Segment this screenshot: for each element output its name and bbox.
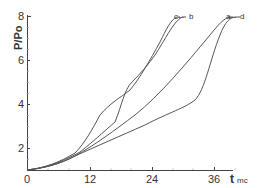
series-d-label: d: [240, 12, 244, 21]
x-tick-0: 0: [24, 173, 30, 185]
minor-ticks: [27, 28, 235, 171]
y-axis-title: P/Po: [12, 25, 24, 50]
series-b-line: [27, 17, 186, 170]
x-axis-unit: mc: [237, 176, 248, 185]
y-tick-4: 4: [18, 98, 24, 110]
x-tick-36: 36: [208, 173, 220, 185]
series-a-line: [27, 17, 233, 170]
series-c-line: [27, 17, 180, 170]
chart: 8 6 4 2 0 12 24 36 P/Po t mc c b a d: [0, 0, 257, 188]
x-tick-24: 24: [146, 173, 158, 185]
axes: [27, 15, 233, 171]
x-axis-title: t: [230, 172, 234, 186]
y-tick-2: 2: [18, 142, 24, 154]
series-c-label: c: [174, 12, 178, 21]
y-tick-8: 8: [18, 10, 24, 22]
series-d-line: [27, 17, 240, 170]
series-a-label: a: [226, 12, 231, 21]
series-lines: [27, 17, 240, 170]
y-tick-6: 6: [18, 54, 24, 66]
x-tick-12: 12: [84, 173, 96, 185]
series-b-label: b: [189, 12, 194, 21]
